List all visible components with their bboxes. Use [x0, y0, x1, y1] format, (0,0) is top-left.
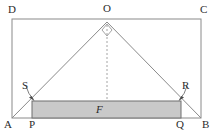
label-q: Q [176, 119, 184, 130]
shaded-rectangle-pqrs [32, 101, 181, 118]
geometry-figure: D O C S R A P F Q B [0, 0, 214, 133]
figure-canvas [0, 0, 214, 133]
label-r: R [182, 80, 189, 91]
label-b: B [202, 119, 209, 130]
label-p: P [29, 119, 35, 130]
label-a: A [4, 119, 12, 130]
label-c: C [200, 4, 207, 15]
label-o: O [103, 3, 111, 14]
label-f: F [96, 104, 103, 115]
label-s: S [22, 80, 28, 91]
label-d: D [8, 4, 16, 15]
